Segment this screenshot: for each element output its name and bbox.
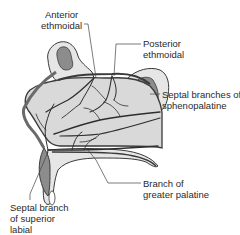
label-text: Posterior: [143, 38, 184, 49]
hard-palate: [43, 149, 158, 205]
label-septal-branches-sphenopalatine: Septal branches of sphenopalatine: [162, 89, 240, 111]
label-text: Septal branch: [10, 202, 69, 213]
label-posterior-ethmoidal: Posterior ethmoidal: [143, 38, 184, 60]
label-septal-branch-superior-labial: Septal branch of superior labial: [10, 202, 69, 235]
label-branch-greater-palatine: Branch of greater palatine: [143, 178, 209, 200]
leader-posterior-ethmoidal: [114, 44, 141, 76]
label-anterior-ethmoidal: Anterior ethmoidal: [41, 9, 82, 31]
label-text: labial: [10, 224, 69, 235]
label-text: greater palatine: [143, 189, 209, 200]
label-text: sphenopalatine: [162, 100, 240, 111]
label-text: Branch of: [143, 178, 209, 189]
label-text: of superior: [10, 213, 69, 224]
label-text: ethmoidal: [143, 49, 184, 60]
label-text: ethmoidal: [41, 20, 82, 31]
label-text: Septal branches of: [162, 89, 240, 100]
label-text: Anterior: [41, 9, 82, 20]
